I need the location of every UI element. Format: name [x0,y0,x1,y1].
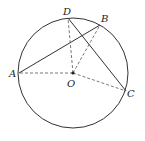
chord-ab [19,25,100,73]
label-c: C [127,88,135,99]
geometry-diagram: A B D C O [0,0,145,141]
center-point [71,71,74,74]
radius-ob [73,25,100,73]
label-b: B [100,13,108,24]
radius-od [68,18,73,73]
chord-dc [68,18,126,91]
label-o: O [67,78,75,89]
radius-oc [73,73,126,91]
label-a: A [8,68,16,79]
label-d: D [62,6,71,17]
